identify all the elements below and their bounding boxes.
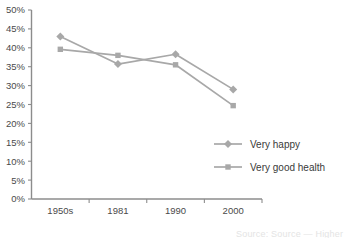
data-point-diamond [172, 50, 180, 58]
footer-source-note: Source: Source — Higher education [236, 229, 345, 238]
x-axis-tick-label: 1990 [165, 205, 186, 216]
y-axis-tick-label: 10% [6, 156, 26, 167]
y-axis-tick-label: 30% [6, 80, 26, 91]
y-axis-tick-label: 50% [6, 4, 26, 15]
legend-label: Very happy [250, 139, 300, 150]
y-axis-tick-label: 0% [11, 193, 25, 204]
y-axis-tick-label: 35% [6, 61, 26, 72]
data-point-square [230, 103, 235, 108]
y-axis-tick-label: 25% [6, 99, 26, 110]
series-line [60, 49, 233, 105]
data-point-square [225, 164, 230, 169]
x-axis-tick-label: 1950s [47, 205, 73, 216]
chart-container: 0%5%10%15%20%25%30%35%40%45%50% 1950s198… [0, 0, 345, 238]
x-axis-ticks: 1950s198119902000 [47, 199, 262, 216]
legend-item-1[interactable]: Very happy [214, 139, 300, 150]
y-axis-tick-label: 15% [6, 137, 26, 148]
data-point-diamond [56, 32, 64, 40]
y-axis-ticks: 0%5%10%15%20%25%30%35%40%45%50% [6, 4, 32, 204]
series-layer [56, 32, 237, 108]
series-line [60, 36, 233, 89]
series-2 [58, 47, 236, 109]
y-axis-tick-label: 20% [6, 118, 26, 129]
x-axis-tick-label: 2000 [223, 205, 244, 216]
x-axis-tick-label: 1981 [107, 205, 128, 216]
chart-legend: Very happyVery good health [214, 139, 325, 173]
y-axis-tick-label: 40% [6, 42, 26, 53]
legend-label: Very good health [250, 162, 325, 173]
data-point-diamond [224, 140, 232, 148]
data-point-square [173, 62, 178, 67]
data-point-square [58, 47, 63, 52]
data-point-diamond [114, 60, 122, 68]
legend-item-2[interactable]: Very good health [214, 162, 325, 173]
y-axis-tick-label: 45% [6, 23, 26, 34]
data-point-diamond [229, 85, 237, 93]
data-point-square [115, 53, 120, 58]
series-1 [56, 32, 237, 93]
line-chart: 0%5%10%15%20%25%30%35%40%45%50% 1950s198… [0, 0, 345, 238]
y-axis-tick-label: 5% [11, 175, 25, 186]
